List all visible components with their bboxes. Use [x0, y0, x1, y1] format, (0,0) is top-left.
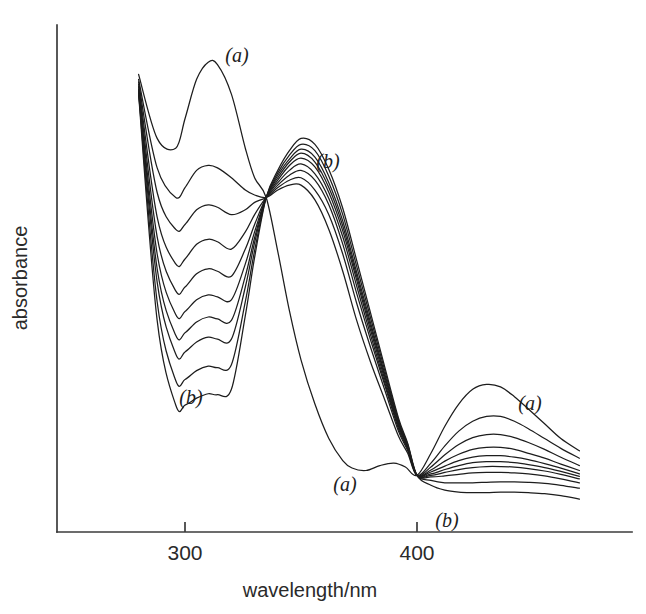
curve-label-b-uv-minimum: (b)	[179, 386, 203, 409]
curve-label-a-uv-band: (a)	[225, 44, 249, 67]
curve-label-b-visible-band: (b)	[435, 509, 459, 532]
x-tick-label-300: 300	[167, 541, 202, 564]
curve-label-a-visible-band: (a)	[518, 392, 542, 415]
curve-label-b-350-band: (b)	[316, 150, 340, 173]
x-axis-title: wavelength/nm	[242, 579, 378, 601]
y-axis-title: absorbance	[9, 226, 31, 331]
absorbance-spectra-figure: 300 400 wavelength/nm absorbance (a) (b)…	[0, 0, 646, 614]
x-tick-label-400: 400	[399, 541, 434, 564]
spectrum-curve	[139, 94, 580, 499]
spectrum-curve	[139, 79, 580, 475]
curve-label-a-valley: (a)	[333, 473, 357, 496]
spectra-curve-group	[139, 60, 580, 499]
